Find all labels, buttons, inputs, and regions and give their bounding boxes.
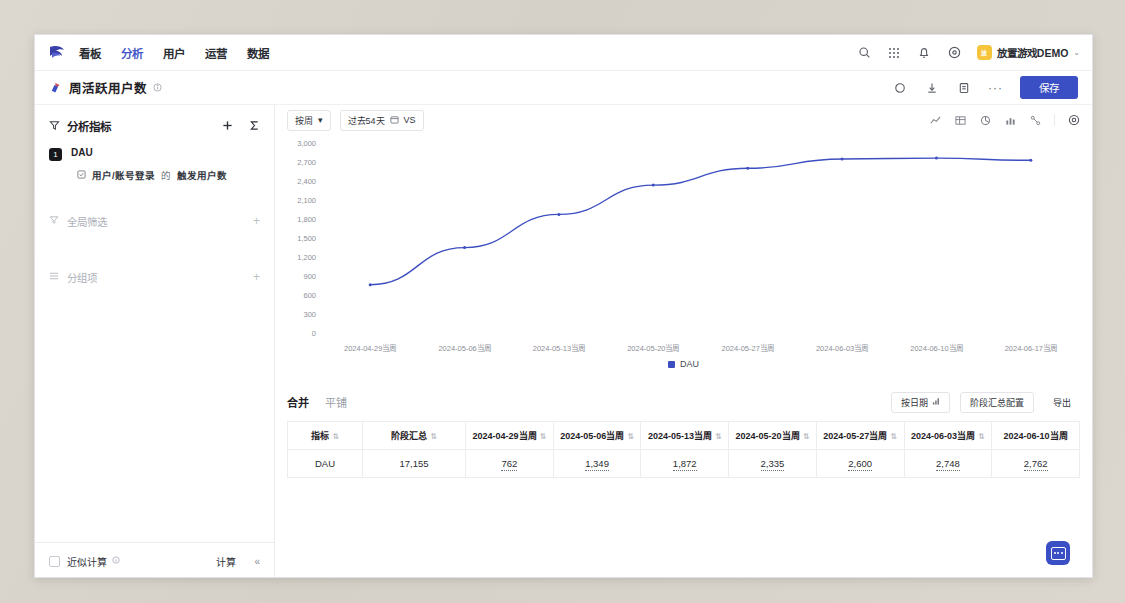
assistant-icon[interactable] [1046,541,1070,565]
sort-by-date-button[interactable]: 按日期 [891,392,950,413]
cell-week-3[interactable]: 1,872 [641,450,729,478]
svg-text:2024-06-10当周: 2024-06-10当周 [910,343,962,353]
approximate-calc-label: 近似计算 [67,554,107,569]
dau-line-chart: 03006009001,2001,5001,8002,1002,4002,700… [275,135,1092,365]
pin-icon[interactable] [49,81,62,94]
th-week-4[interactable]: 2024-05-20当周⇅ [729,422,817,450]
th-metric-label: 指标 [311,431,329,441]
cell-week-5[interactable]: 2,600 [816,450,904,478]
add-grouping-icon[interactable]: + [253,270,260,284]
sort-icon: ⇅ [540,432,547,441]
nav-item-analysis[interactable]: 分析 [121,45,143,61]
granularity-value: 按周 [295,114,313,127]
table-icon[interactable] [954,114,967,127]
info-circle-icon[interactable] [112,556,120,566]
th-week-1[interactable]: 2024-04-29当周⇅ [466,422,554,450]
add-global-filter-icon[interactable]: + [253,214,260,228]
avatar: 放 [977,45,992,60]
svg-text:3,000: 3,000 [297,139,316,148]
svg-text:600: 600 [303,291,316,300]
nav-item-operations[interactable]: 运营 [205,45,227,61]
metrics-panel-actions [222,119,260,134]
metric-definition[interactable]: 用户/账号登录 的 触发用户数 [35,161,274,182]
svg-text:1,800: 1,800 [297,215,316,224]
help-circle-icon[interactable] [947,45,962,60]
tab-tiled[interactable]: 平铺 [325,394,347,410]
svg-text:2024-05-27当周: 2024-05-27当周 [722,343,774,353]
report-title-bar: 周活跃用户数 ··· 保存 [35,71,1092,105]
search-icon[interactable] [857,45,872,60]
line-chart-icon[interactable] [929,114,942,127]
approximate-calc-checkbox[interactable] [49,556,60,567]
bar-chart-icon[interactable] [1004,114,1017,127]
sidebar-section-global-filter[interactable]: 全局筛选 + [35,204,274,238]
cell-week-2[interactable]: 1,349 [553,450,641,478]
th-stage-total[interactable]: 阶段汇总⇅ [363,422,466,450]
table-actions: 按日期 阶段汇总配置 导出 [891,392,1080,413]
more-options-button[interactable]: ··· [988,81,1003,95]
refresh-icon[interactable] [892,80,907,95]
calculate-button[interactable]: 计算 [216,554,236,569]
cell-week-1[interactable]: 762 [466,450,554,478]
nav-item-data[interactable]: 数据 [247,45,269,61]
th-week-6[interactable]: 2024-06-03当周⇅ [904,422,992,450]
cell-week-7[interactable]: 2,762 [992,450,1080,478]
cell-week-3-value: 1,872 [673,458,697,471]
cell-week-2-value: 1,349 [585,458,609,471]
cell-week-4-value: 2,335 [761,458,785,471]
gear-icon[interactable] [1067,114,1080,127]
sort-icon: ⇅ [332,432,339,441]
sidebar-footer: 近似计算 计算 « [35,542,274,578]
nav-item-kanban[interactable]: 看板 [79,45,101,61]
metric-event-name: 用户/账号登录 [92,168,155,182]
event-icon [77,170,86,181]
sidebar-label-global-filter: 全局筛选 [67,214,107,229]
tab-merged[interactable]: 合并 [287,394,309,410]
toolbar-divider [1054,114,1055,126]
grid-apps-icon[interactable] [887,45,902,60]
th-week-3[interactable]: 2024-05-13当周⇅ [641,422,729,450]
top-navigation-bar: 看板 分析 用户 运营 数据 [35,35,1092,71]
plus-icon[interactable] [222,119,233,134]
svg-text:2,700: 2,700 [297,158,316,167]
date-range-select[interactable]: 过去54天 VS [340,110,424,131]
copy-icon[interactable] [956,80,971,95]
nav-item-users[interactable]: 用户 [163,45,185,61]
funnel-icon [49,215,59,227]
download-icon[interactable] [924,80,939,95]
assistant-glyph [1051,547,1066,560]
cell-week-6[interactable]: 2,748 [904,450,992,478]
table-row: DAU 17,155 762 1,349 1,872 2,335 2,600 2… [288,450,1080,478]
vs-toggle[interactable]: VS [404,115,416,125]
app-window: 看板 分析 用户 运营 数据 [34,34,1093,578]
account-name: 放置游戏DEMO [997,45,1069,60]
metric-item[interactable]: 1 DAU [35,143,274,161]
save-button[interactable]: 保存 [1020,76,1078,99]
brand-logo-icon[interactable] [47,44,67,62]
flow-chart-icon[interactable] [1029,114,1042,127]
collapse-sidebar-button[interactable]: « [254,556,260,567]
account-menu[interactable]: 放 放置游戏DEMO ⌄ [977,45,1080,60]
sort-icon: ⇅ [803,432,810,441]
th-week-5[interactable]: 2024-05-27当周⇅ [816,422,904,450]
sigma-icon[interactable] [249,119,260,134]
info-circle-icon[interactable] [153,83,162,92]
granularity-select[interactable]: 按周 ▾ [287,110,331,131]
th-metric[interactable]: 指标⇅ [288,422,363,450]
cell-week-4[interactable]: 2,335 [729,450,817,478]
workspace: 分析指标 1 DAU 用户/账号登录 的 [35,105,1092,578]
th-week-2[interactable]: 2024-05-06当周⇅ [553,422,641,450]
svg-text:2024-05-06当周: 2024-05-06当周 [438,343,490,353]
bell-icon[interactable] [917,45,932,60]
stage-summary-config-button[interactable]: 阶段汇总配置 [960,392,1034,413]
cell-stage-total: 17,155 [363,450,466,478]
top-nav-actions: 放 放置游戏DEMO ⌄ [857,45,1080,60]
th-week-7[interactable]: 2024-06-10当周 [992,422,1080,450]
metrics-table: 指标⇅ 阶段汇总⇅ 2024-04-29当周⇅ 2024-05-06当周⇅ 20… [287,421,1080,478]
sidebar-section-grouping[interactable]: 分组项 + [35,260,274,294]
svg-text:2024-05-20当周: 2024-05-20当周 [627,343,679,353]
chart-canvas: 03006009001,2001,5001,8002,1002,4002,700… [275,135,1092,365]
pie-chart-icon[interactable] [979,114,992,127]
export-button[interactable]: 导出 [1044,393,1080,412]
svg-text:1,500: 1,500 [297,234,316,243]
